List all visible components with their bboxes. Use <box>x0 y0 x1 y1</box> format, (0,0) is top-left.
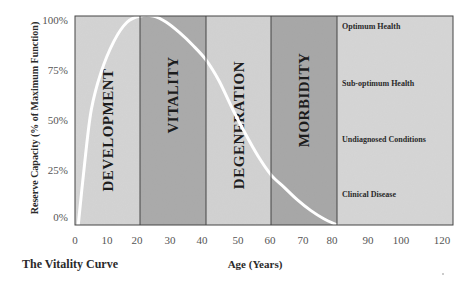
band-label-vitality: VITALITY <box>165 56 181 133</box>
x-tick-label: 0 <box>72 234 78 246</box>
x-tick-label: 70 <box>298 234 310 246</box>
y-axis-title: Reserve Capacity (% of Maximum Function) <box>29 22 41 214</box>
x-tick-label: 100 <box>393 234 410 246</box>
status-label-clinical-disease: Clinical Disease <box>342 190 396 199</box>
y-tick-label: 25% <box>48 164 68 176</box>
x-tick-label: 80 <box>327 234 339 246</box>
status-label-optimum-health: Optimum Health <box>342 22 401 31</box>
x-tick-label: 50 <box>233 234 245 246</box>
x-axis-title: Age (Years) <box>228 258 283 271</box>
speck-dot <box>442 273 444 275</box>
y-tick-labels: 0%25%50%75%100% <box>42 14 68 223</box>
chart-caption: The Vitality Curve <box>22 257 119 271</box>
x-tick-label: 10 <box>102 234 114 246</box>
x-tick-label: 120 <box>434 234 451 246</box>
x-tick-label: 30 <box>165 234 177 246</box>
age-bands <box>75 16 453 225</box>
x-tick-label: 90 <box>363 234 375 246</box>
status-label-sub-optimum-health: Sub-optimum Health <box>342 79 415 88</box>
y-tick-label: 0% <box>53 211 68 223</box>
x-tick-labels: 0102030405060708090100120 <box>72 234 451 246</box>
band-label-development: DEVELOPMENT <box>100 68 116 191</box>
y-tick-label: 100% <box>42 14 68 26</box>
y-tick-label: 75% <box>48 64 68 76</box>
x-tick-label: 20 <box>132 234 144 246</box>
vitality-curve-chart: DEVELOPMENTVITALITYDEGENERATIONMORBIDITY… <box>0 0 475 290</box>
x-tick-label: 40 <box>197 234 209 246</box>
band-label-degeneration: DEGENERATION <box>231 61 247 189</box>
y-tick-label: 50% <box>48 114 68 126</box>
band-label-morbidity: MORBIDITY <box>296 53 312 148</box>
x-tick-label: 60 <box>265 234 277 246</box>
status-label-undiagnosed-conditions: Undiagnosed Conditions <box>342 135 426 144</box>
